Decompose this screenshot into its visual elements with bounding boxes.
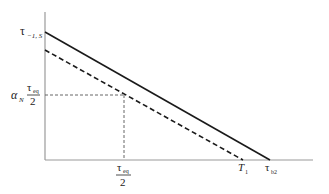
svg-text:α: α [11, 88, 18, 102]
label-t1: T 1 [238, 161, 248, 175]
solid-line [45, 32, 270, 160]
svg-text:eq: eq [123, 168, 129, 174]
label-alpha-tau-eq-half: α N τ eq 2 [11, 81, 40, 107]
svg-text:T: T [238, 161, 245, 173]
diagram-canvas: τ −1, S α N τ eq 2 τ eq 2 T 1 τ b2 [0, 0, 329, 194]
svg-text:2: 2 [30, 95, 36, 107]
svg-text:1: 1 [245, 169, 248, 175]
dashed-line [45, 50, 243, 160]
svg-text:τ: τ [117, 161, 122, 173]
svg-text:τ: τ [27, 81, 32, 93]
svg-text:2: 2 [120, 176, 126, 188]
label-tau-b2: τ b2 [265, 161, 277, 175]
svg-text:τ: τ [265, 161, 270, 173]
svg-text:−1, S: −1, S [27, 32, 43, 40]
label-tau-eq-half: τ eq 2 [116, 161, 131, 188]
label-tau-minus1-s: τ −1, S [20, 24, 43, 40]
svg-text:b2: b2 [271, 169, 277, 175]
svg-text:eq: eq [33, 88, 39, 94]
svg-text:N: N [18, 96, 24, 104]
svg-text:τ: τ [20, 24, 25, 38]
